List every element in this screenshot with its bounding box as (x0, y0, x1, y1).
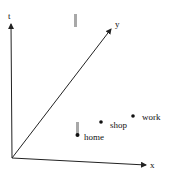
space-time-diagram (0, 0, 171, 175)
x-axis (12, 158, 146, 165)
t-axis (11, 24, 12, 158)
point-home (76, 133, 80, 137)
label-home: home (84, 133, 104, 142)
y-axis-label: y (115, 20, 120, 29)
point-shop (99, 120, 103, 124)
x-axis-label: x (150, 161, 155, 170)
label-shop: shop (110, 121, 127, 130)
label-work: work (142, 113, 161, 122)
bar-home (76, 122, 79, 134)
bar-upper (74, 14, 77, 27)
t-axis-label: t (8, 12, 11, 21)
point-work (131, 114, 135, 118)
